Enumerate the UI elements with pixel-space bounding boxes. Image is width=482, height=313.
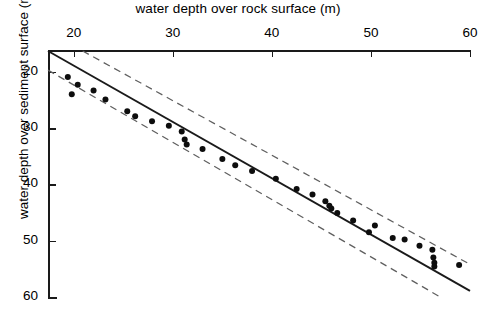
data-point bbox=[390, 235, 396, 241]
data-point bbox=[366, 229, 372, 235]
y-tick-label-20: 20 bbox=[8, 63, 38, 78]
confidence-band-upper bbox=[83, 51, 470, 264]
x-tick-label-40: 40 bbox=[249, 25, 295, 40]
data-point bbox=[416, 243, 422, 249]
data-point bbox=[456, 262, 462, 268]
data-point bbox=[200, 146, 206, 152]
regression-line-group bbox=[48, 51, 470, 291]
y-tick-label-60: 60 bbox=[8, 288, 38, 303]
data-point bbox=[149, 118, 155, 124]
data-point bbox=[372, 223, 378, 229]
x-tick-label-60: 60 bbox=[447, 25, 482, 40]
data-point bbox=[219, 156, 225, 162]
x-axis-title: water depth over rock surface (m) bbox=[0, 1, 476, 16]
data-point bbox=[124, 108, 130, 114]
data-point bbox=[273, 176, 279, 182]
data-point bbox=[102, 96, 108, 102]
data-point bbox=[249, 168, 255, 174]
data-point bbox=[431, 264, 437, 270]
data-point bbox=[65, 74, 71, 80]
data-point bbox=[350, 217, 356, 223]
x-tick-label-30: 30 bbox=[150, 25, 196, 40]
regression-line bbox=[48, 51, 470, 291]
data-point bbox=[309, 192, 315, 198]
data-point bbox=[179, 129, 185, 135]
x-tick-60 bbox=[470, 50, 471, 57]
data-point bbox=[232, 162, 238, 168]
data-point bbox=[334, 210, 340, 216]
y-tick-60 bbox=[49, 297, 56, 298]
data-point bbox=[429, 247, 435, 253]
data-point bbox=[166, 123, 172, 129]
data-point bbox=[294, 186, 300, 192]
x-tick-label-20: 20 bbox=[51, 25, 97, 40]
data-points-group bbox=[65, 74, 462, 270]
data-point bbox=[69, 91, 75, 97]
y-tick-label-30: 30 bbox=[8, 119, 38, 134]
data-point bbox=[91, 87, 97, 93]
plot-area bbox=[48, 51, 470, 297]
y-tick-label-40: 40 bbox=[8, 175, 38, 190]
data-point bbox=[184, 141, 190, 147]
data-point bbox=[322, 198, 328, 204]
confidence-band-lower bbox=[48, 70, 440, 297]
data-point bbox=[430, 255, 436, 261]
y-tick-label-50: 50 bbox=[8, 232, 38, 247]
data-point bbox=[132, 113, 138, 119]
x-tick-label-50: 50 bbox=[348, 25, 394, 40]
data-point bbox=[75, 82, 81, 88]
data-point bbox=[402, 237, 408, 243]
data-point bbox=[328, 206, 334, 212]
